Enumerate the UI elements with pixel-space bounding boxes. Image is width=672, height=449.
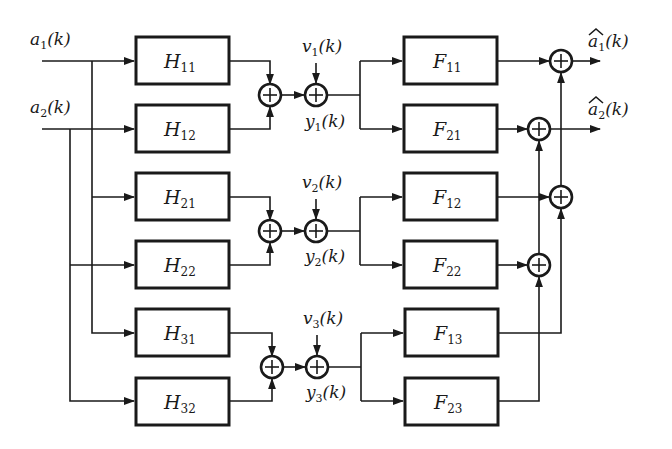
tx-filter-H11: H11 (136, 37, 229, 84)
rx-filter-F12: F12 (404, 173, 497, 220)
noise-summer-icon (306, 356, 328, 378)
output-label-a1hat: a1(k) (588, 29, 629, 54)
svg-text:a2(k): a2(k) (588, 99, 629, 122)
output-combiner (497, 50, 600, 401)
noise-summer-icon (305, 84, 327, 106)
wire-F23-to-sum (498, 277, 539, 401)
wire-H22-to-sum (229, 243, 270, 265)
rx-filter-F23: F23 (405, 378, 498, 425)
output-label-y3: y3(k) (305, 382, 346, 405)
output-label-y2: y2(k) (304, 246, 345, 269)
tx-filter-H12: H12 (136, 105, 229, 152)
summer-icon (259, 84, 281, 106)
wire-H11-to-sum (229, 61, 270, 84)
tx-filter-H22: H22 (136, 241, 229, 288)
noise-label-v3: v3(k) (303, 308, 343, 331)
tx-filter-H32: H32 (136, 378, 229, 425)
wire-H12-to-sum (229, 107, 270, 129)
svg-text:a1(k): a1(k) (588, 31, 629, 54)
output-label-y1: y1(k) (304, 111, 345, 134)
tx-filter-H21: H21 (136, 173, 229, 220)
noise-summer-icon (305, 220, 327, 242)
noise-label-v1: v1(k) (302, 36, 342, 59)
rx-filter-F21: F21 (404, 105, 497, 152)
wire-H21-to-sum (229, 197, 270, 220)
channel-2: v2(k) y2(k) (229, 172, 402, 269)
wire-H32-to-sum (229, 379, 272, 401)
channel-3: v3(k) y3(k) (229, 308, 403, 405)
channel-1: v1(k) y1(k) (229, 36, 402, 134)
noise-label-v2: v2(k) (302, 172, 342, 195)
input-label-a2: a2(k) (30, 97, 71, 120)
rx-filter-F13: F13 (405, 309, 498, 356)
rx-filter-F11: F11 (404, 37, 497, 84)
summer-icon (528, 118, 550, 140)
mimo-block-diagram: a1(k) a2(k) H11 H12 H21 H22 H31 H32 (0, 0, 672, 449)
output-label-a2hat: a2(k) (588, 97, 629, 122)
summer-icon (259, 220, 281, 242)
input-label-a1: a1(k) (30, 29, 71, 52)
summer-icon (528, 254, 550, 276)
tx-filter-H31: H31 (136, 309, 229, 356)
summer-icon (261, 356, 283, 378)
summer-icon (550, 50, 572, 72)
rx-filter-F22: F22 (404, 241, 497, 288)
wire-H31-to-sum (229, 333, 272, 356)
summer-icon (550, 186, 572, 208)
